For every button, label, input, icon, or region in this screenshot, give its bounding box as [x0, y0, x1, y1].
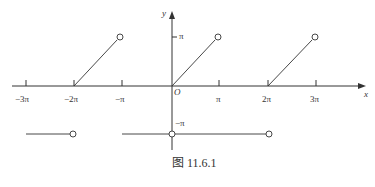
x-tick-label: −3π: [15, 94, 29, 104]
rising-segments: [74, 40, 312, 86]
y-axis-arrow-icon: [169, 11, 175, 19]
x-axis-label: x: [364, 89, 368, 99]
y-tick-label-neg-pi: −π: [175, 118, 185, 128]
x-tick-label: −π: [115, 94, 125, 104]
y-tick-label-pi: π: [179, 31, 184, 41]
x-tick-label: π: [216, 94, 221, 104]
x-tick-label: −2π: [64, 94, 78, 104]
x-tick-label: 2π: [262, 94, 271, 104]
origin-label: O: [174, 87, 181, 97]
y-axis-label: y: [162, 8, 166, 18]
figure-caption: 图 11.6.1: [172, 153, 217, 171]
x-tick-label: 3π: [310, 94, 319, 104]
